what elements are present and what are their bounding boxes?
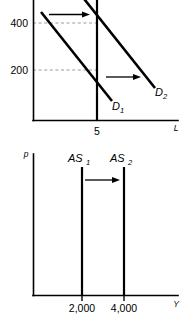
x-tick-label-5: 5 xyxy=(94,125,100,137)
upper-shift-arrowhead xyxy=(82,11,90,17)
demand-curve-d1 xyxy=(41,12,112,101)
x-tick-label-2000: 2,000 xyxy=(69,302,95,314)
x-axis-label-y: Y xyxy=(173,299,180,309)
curve-label-as2-sub: 2 xyxy=(127,158,133,167)
curve-label-d2-sub: 2 xyxy=(162,92,168,101)
labor-market-chart: 400 200 5 L D 1 D 2 xyxy=(0,0,192,140)
curve-label-as2: AS 2 xyxy=(109,152,133,167)
lower-shift-arrowhead xyxy=(133,74,141,80)
curve-label-as1-text: AS xyxy=(67,152,83,164)
curve-label-as1-sub: 1 xyxy=(86,158,90,167)
curve-label-as1: AS 1 xyxy=(67,152,90,167)
curve-label-d2-text: D xyxy=(155,86,163,98)
y-tick-label-400: 400 xyxy=(10,17,28,29)
aggregate-supply-svg: p Y 2,000 4,000 AS 1 AS xyxy=(0,140,192,329)
labor-market-svg: 400 200 5 L D 1 D 2 xyxy=(0,0,192,140)
economics-figure: 400 200 5 L D 1 D 2 p xyxy=(0,0,192,329)
y-axis-label-p: p xyxy=(23,149,29,159)
x-tick-label-4000: 4,000 xyxy=(111,302,137,314)
curve-label-d1: D 1 xyxy=(112,100,124,115)
curve-label-as2-text: AS xyxy=(109,152,125,164)
aggregate-supply-chart: p Y 2,000 4,000 AS 1 AS xyxy=(0,140,192,329)
demand-curve-d2 xyxy=(77,0,155,88)
curve-label-d2: D 2 xyxy=(155,86,168,101)
y-tick-label-200: 200 xyxy=(10,64,28,76)
as-shift-arrowhead xyxy=(112,177,120,183)
curve-label-d1-sub: 1 xyxy=(120,106,124,115)
x-axis-label-l: L xyxy=(174,123,179,133)
curve-label-d1-text: D xyxy=(112,100,120,112)
